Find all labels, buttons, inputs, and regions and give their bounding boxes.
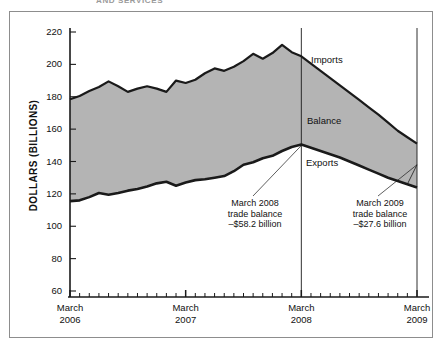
y-axis-tick-label: 220: [36, 26, 62, 37]
balance-series-label: Balance: [307, 115, 341, 126]
annotation-2009-line3: –$27.6 billion: [325, 219, 435, 230]
x-axis-tick-year: 2009: [385, 314, 442, 326]
y-axis-tick-label: 180: [36, 91, 62, 102]
x-axis-tick-month: March: [38, 302, 102, 314]
annotation-2008-line1: March 2008: [200, 198, 310, 209]
exports-series-label: Exports: [306, 157, 338, 168]
y-axis-tick-label: 80: [36, 253, 62, 264]
y-axis-tick-label: 60: [36, 285, 62, 296]
y-axis-tick-label: 200: [36, 58, 62, 69]
y-axis-tick-label: 160: [36, 123, 62, 134]
x-axis-tick-label: March2006: [38, 302, 102, 325]
annotation-2008-line2: trade balance: [200, 209, 310, 220]
imports-series-label: Imports: [311, 54, 343, 65]
chart-plot-area: [0, 0, 442, 347]
x-axis-tick-label: March2007: [154, 302, 218, 325]
y-axis-tick-label: 140: [36, 156, 62, 167]
x-axis-tick-month: March: [385, 302, 442, 314]
annotation-2008-line3: –$58.2 billion: [200, 219, 310, 230]
x-axis-tick-year: 2008: [269, 314, 333, 326]
annotation-march-2008: March 2008 trade balance –$58.2 billion: [200, 198, 310, 230]
y-axis-tick-label: 120: [36, 188, 62, 199]
y-axis-tick-label: 100: [36, 220, 62, 231]
chart-render-group: [68, 28, 429, 297]
x-axis-tick-month: March: [154, 302, 218, 314]
x-axis-tick-year: 2006: [38, 314, 102, 326]
figure-root: AND SERVICES DOLLARS (BILLIONS) 22020018…: [0, 0, 442, 347]
x-axis-tick-year: 2007: [154, 314, 218, 326]
balance-shaded-region: [70, 45, 417, 201]
annotation-march-2009: March 2009 trade balance –$27.6 billion: [325, 198, 435, 230]
annotation-2009-line1: March 2009: [325, 198, 435, 209]
chart-svg: [0, 0, 442, 347]
x-axis-tick-label: March2009: [385, 302, 442, 325]
x-axis-tick-label: March2008: [269, 302, 333, 325]
x-axis-tick-month: March: [269, 302, 333, 314]
annotation-2009-line2: trade balance: [325, 209, 435, 220]
